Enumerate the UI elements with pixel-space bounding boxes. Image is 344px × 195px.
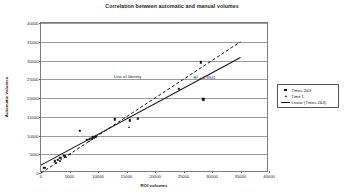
data-point-triangle (137, 117, 139, 119)
y-tick-label: 10000 (27, 133, 38, 138)
chart-annotation: Line of Identity (114, 74, 141, 79)
data-point-triangle (69, 153, 71, 155)
y-tick-label: 40000 (27, 21, 38, 26)
legend-item[interactable]: Linear (Times 2&3) (281, 99, 336, 105)
y-tick-label: 35000 (27, 39, 38, 44)
y-tick-label: 0 (36, 171, 38, 176)
data-point-square (79, 130, 81, 132)
y-tick-label: 5000 (29, 152, 38, 157)
x-tick-label: 20000 (149, 174, 160, 179)
x-axis-title: ROI volumes (40, 183, 268, 188)
plot-area: 0500010000150002000025000300003500040000… (40, 22, 268, 172)
data-point-square (199, 61, 201, 63)
x-tick-label: 30000 (206, 174, 217, 179)
y-tick-label: 25000 (27, 77, 38, 82)
x-tick-label: 15000 (121, 174, 132, 179)
chart-title: Correlation between automatic and manual… (0, 3, 344, 9)
square-marker-icon-glyph (284, 89, 286, 91)
data-point-square (95, 135, 97, 137)
y-tick-label: 30000 (27, 58, 38, 63)
triangle-marker-icon (281, 95, 291, 97)
y-tick-label: 15000 (27, 114, 38, 119)
legend-item-label: Linear (Times 2&3) (291, 100, 327, 105)
data-point-triangle (128, 126, 130, 128)
data-point-square (178, 88, 180, 90)
triangle-marker-icon-glyph (285, 95, 287, 97)
x-tick-label: 5000 (65, 174, 74, 179)
legend-item-label: Time 1 (291, 94, 304, 99)
data-points-layer (41, 23, 267, 171)
solid-line-icon (281, 102, 291, 103)
data-point-triangle (65, 156, 67, 158)
x-tick-label: 25000 (178, 174, 189, 179)
data-point-triangle (88, 140, 90, 142)
x-tick-label: 10000 (92, 174, 103, 179)
y-tick-label: 20000 (27, 96, 38, 101)
chart-annotation: R² = 0.9341 (194, 75, 216, 80)
data-point-triangle (59, 160, 61, 162)
x-tick-label: 0 (40, 174, 42, 179)
x-tick-label: 35000 (235, 174, 246, 179)
data-point-square (129, 119, 131, 121)
data-point-square (202, 98, 204, 100)
data-point-square (114, 118, 116, 120)
chart-container: Correlation between automatic and manual… (0, 0, 344, 195)
solid-line-icon-glyph (281, 102, 290, 103)
square-marker-icon (281, 89, 291, 91)
legend-item-label: Times 2&3 (291, 88, 311, 93)
x-tick-mark (269, 171, 270, 173)
chart-legend: Times 2&3Time 1Linear (Times 2&3) (277, 84, 339, 108)
x-tick-label: 40000 (263, 174, 274, 179)
y-axis-title: Automatic volumes (4, 77, 9, 118)
data-point-square (43, 167, 45, 169)
data-point-triangle (55, 162, 57, 164)
data-point-square (59, 156, 61, 158)
data-point-triangle (91, 138, 93, 140)
